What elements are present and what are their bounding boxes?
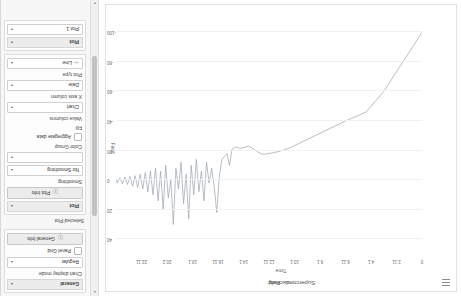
panel-plot-options: Plot ▴ ⓘ Plot Info Smoothing No Smoothin… (4, 54, 86, 215)
x-axis-title: Time (106, 268, 456, 274)
select-color-group[interactable]: ▾ (7, 152, 83, 163)
x-tick-label: 12.11 (264, 259, 275, 264)
panel-plot-selector: Plot ▾ Plot 1 ▾ (4, 20, 86, 51)
chevron-up-icon: ▴ (11, 260, 13, 265)
x-tick-label: 14.1 (239, 259, 248, 264)
chevron-up-icon: ▴ (11, 168, 13, 173)
scrollbar-thumb[interactable] (92, 56, 97, 216)
panel-title-plot-options: Plot (70, 204, 79, 210)
select-value-columns[interactable]: Chart ▾ (7, 102, 83, 113)
x-axis-tick-labels: 02.114.16.118.110.112.1114.116.1118.120.… (116, 254, 422, 264)
x-tick-label: 8.1 (317, 259, 323, 264)
settings-sidebar: General ▴ Chart display mode Regular ▴ P… (0, 0, 90, 296)
label-plot-type: Plot type (7, 71, 83, 78)
chevron-down-icon: ▾ (11, 155, 13, 160)
plot-info-button-label: Plot Info (32, 190, 50, 196)
panel-general: General ▴ Chart display mode Regular ▴ P… (4, 229, 86, 293)
chart-legend: Field (106, 280, 456, 286)
info-icon: ⓘ (58, 236, 63, 243)
x-tick-label: 4.1 (368, 259, 374, 264)
chevron-up-icon: ▴ (11, 61, 13, 66)
y-tick-label: -60 (107, 89, 114, 94)
x-tick-label: 0 (421, 259, 424, 264)
scrollbar-up-arrow[interactable]: ▴ (94, 289, 96, 296)
panel-title-plot-selector: Plot (70, 40, 79, 46)
y-tick-label: 20 (107, 207, 112, 212)
y-tick-label: -40 (107, 119, 114, 124)
label-aggregate-data: Aggregate data (37, 134, 71, 140)
value-value-columns: Chart (67, 105, 79, 111)
value-plot-type: Line (63, 61, 72, 67)
line-chart-icon: 〰 (74, 60, 79, 67)
chevron-up-icon[interactable]: ▴ (11, 204, 13, 209)
y-tick-label: 40 (107, 237, 112, 242)
select-plot-type[interactable]: 〰 Line ▴ (7, 58, 83, 69)
checkbox-panel-grid[interactable] (74, 247, 82, 255)
select-smoothing[interactable]: No Smoothing ▴ (7, 165, 83, 176)
select-plot[interactable]: Plot 1 ▾ (7, 24, 83, 35)
general-info-button-label: General Info (27, 236, 55, 242)
label-x-axis-column: X axis column (7, 93, 83, 100)
chart-card: Superconductivity Field Time Field 02.11… (105, 4, 457, 292)
gridline (116, 150, 422, 151)
checkbox-aggregate-data[interactable] (74, 133, 82, 141)
panel-header-plot-selector[interactable]: Plot ▾ (7, 37, 83, 48)
chevron-up-icon[interactable]: ▴ (11, 282, 13, 287)
chevron-down-icon: ▾ (11, 83, 13, 88)
select-x-axis-column[interactable]: Date ▾ (7, 80, 83, 91)
y-tick-label: -80 (107, 59, 114, 64)
x-tick-label: 20.2 (163, 259, 172, 264)
gridline (116, 120, 422, 121)
gridline (116, 61, 422, 62)
select-chart-display-mode[interactable]: Regular ▴ (7, 257, 83, 268)
legend-label-field: Field (269, 280, 280, 286)
gridline (116, 90, 422, 91)
checkbox-row-aggregate-data[interactable]: Aggregate data (7, 133, 83, 141)
label-fill: Fill (7, 124, 83, 131)
label-value-columns: Value columns (7, 115, 83, 122)
label-color-group: Color Group (7, 143, 83, 150)
chevron-down-icon: ▾ (11, 105, 13, 110)
checkbox-row-panel-grid[interactable]: Panel Grid (7, 247, 83, 255)
y-tick-label: -100 (107, 30, 116, 35)
gridline (116, 31, 422, 32)
gridline (116, 179, 422, 180)
panel-header-general[interactable]: General ▴ (7, 279, 83, 290)
x-tick-label: 22.11 (136, 259, 147, 264)
gridline (116, 238, 422, 239)
panel-header-plot-options[interactable]: Plot ▴ (7, 201, 83, 212)
chevron-down-icon[interactable]: ▾ (11, 40, 13, 45)
sidebar-scrollbar[interactable]: ▴ ▾ (90, 0, 99, 296)
value-x-axis-column: Date (68, 83, 79, 89)
chevron-down-icon: ▾ (11, 27, 13, 32)
y-tick-label: -20 (107, 148, 114, 153)
application-window: Superconductivity Field Time Field 02.11… (0, 0, 461, 296)
series-line-field (116, 25, 422, 251)
scrollbar-down-arrow[interactable]: ▾ (94, 0, 96, 7)
x-tick-label: 18.1 (188, 259, 197, 264)
x-tick-label: 6.11 (341, 259, 349, 264)
x-tick-label: 2.11 (392, 259, 400, 264)
label-smoothing: Smoothing (7, 178, 83, 185)
label-selected-plot: Selected Plot (4, 218, 86, 226)
plot-info-button[interactable]: ⓘ Plot Info (7, 187, 83, 199)
panel-title-general: General (60, 282, 79, 288)
gridline (116, 209, 422, 210)
info-icon: ⓘ (53, 190, 58, 197)
rotated-app-root: Superconductivity Field Time Field 02.11… (0, 0, 461, 296)
general-info-button[interactable]: ⓘ General Info (7, 233, 83, 245)
value-plot: Plot 1 (66, 27, 79, 33)
label-panel-grid: Panel Grid (47, 248, 71, 254)
x-tick-label: 10.1 (290, 259, 299, 264)
chart-panel: Superconductivity Field Time Field 02.11… (99, 0, 461, 296)
value-smoothing: No Smoothing (47, 168, 79, 174)
legend-swatch-field (284, 283, 293, 284)
x-tick-label: 16.11 (213, 259, 224, 264)
y-tick-label: 0 (107, 178, 110, 183)
plot-area[interactable] (116, 25, 422, 251)
label-chart-display-mode: Chart display mode (7, 270, 83, 277)
value-chart-display-mode: Regular (61, 260, 79, 266)
